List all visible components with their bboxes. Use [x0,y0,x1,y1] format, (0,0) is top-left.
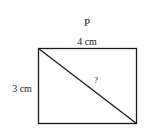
left-side-label: 3 cm [12,83,32,94]
figure-title: P [84,16,90,28]
diagonal-line [39,49,137,124]
rectangle-diagram: P 4 cm 3 cm ? [0,0,148,134]
diagonal-label: ? [94,75,98,85]
top-side-label: 4 cm [77,36,97,47]
